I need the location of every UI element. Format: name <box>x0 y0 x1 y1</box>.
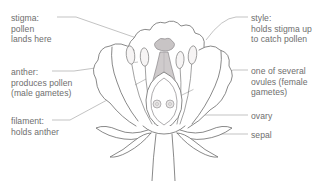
label-stigma: stigma: pollen lands here <box>11 13 52 45</box>
label-style: style: holds stigma up to catch pollen <box>251 13 312 45</box>
leader-line-style <box>206 17 248 40</box>
label-anther: anther: produces pollen (male gametes) <box>11 67 72 99</box>
ovule-right <box>166 100 174 108</box>
ovule-left <box>153 100 161 108</box>
flower-diagram: stigma: pollen lands here anther: produc… <box>0 0 332 181</box>
label-sepal: sepal <box>251 130 272 141</box>
stem-right-edge <box>172 134 175 181</box>
label-ovary: ovary <box>251 111 272 122</box>
stigma <box>155 38 175 51</box>
receptacle-and-sepals <box>96 126 232 181</box>
label-filament: filament: holds anther <box>11 116 59 137</box>
stem <box>152 134 156 181</box>
label-ovules: one of several ovules (female gametes) <box>251 66 308 98</box>
